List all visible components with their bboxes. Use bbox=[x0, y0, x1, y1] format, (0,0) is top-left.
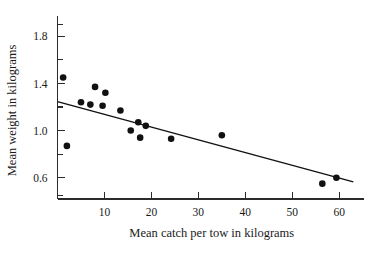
x-tick-label: 20 bbox=[146, 206, 158, 218]
scatter-plot-figure: 0.61.01.41.8102030405060 Mean catch per … bbox=[0, 0, 369, 259]
data-point bbox=[92, 84, 99, 91]
regression-line bbox=[58, 102, 354, 182]
data-point bbox=[135, 119, 142, 126]
data-point bbox=[319, 180, 326, 187]
trend-line bbox=[58, 102, 354, 182]
x-axis-title: Mean catch per tow in kilograms bbox=[129, 226, 294, 240]
data-point bbox=[142, 123, 149, 130]
data-point bbox=[137, 134, 144, 141]
x-tick-label: 30 bbox=[193, 206, 205, 218]
y-tick-label: 1.4 bbox=[33, 78, 48, 90]
data-points bbox=[60, 74, 340, 187]
x-tick-label: 10 bbox=[99, 206, 111, 218]
x-tick-label: 60 bbox=[333, 206, 345, 218]
data-point bbox=[117, 107, 124, 114]
y-tick-label: 1.0 bbox=[33, 125, 48, 137]
data-point bbox=[219, 132, 226, 139]
data-point bbox=[60, 74, 67, 81]
data-point bbox=[64, 143, 71, 150]
data-point bbox=[333, 174, 340, 181]
y-tick-label: 1.8 bbox=[33, 30, 48, 42]
data-point bbox=[102, 90, 109, 97]
data-point bbox=[87, 101, 94, 108]
data-point bbox=[78, 99, 85, 106]
x-tick-label: 40 bbox=[240, 206, 252, 218]
data-point bbox=[127, 127, 134, 134]
tick-labels: 0.61.01.41.8102030405060 bbox=[33, 30, 345, 218]
data-point bbox=[99, 102, 106, 109]
tick-marks bbox=[58, 24, 340, 199]
y-axis-title: Mean weight in kilograms bbox=[5, 45, 19, 177]
y-tick-label: 0.6 bbox=[33, 172, 48, 184]
x-tick-label: 50 bbox=[287, 206, 299, 218]
data-point bbox=[168, 136, 175, 143]
chart-canvas: 0.61.01.41.8102030405060 Mean catch per … bbox=[0, 0, 369, 259]
